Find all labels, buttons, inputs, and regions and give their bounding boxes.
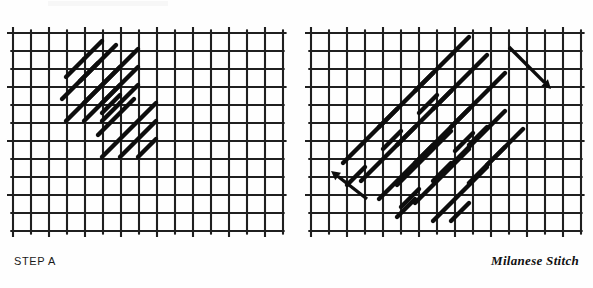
diagram-panel-step-b: STEP B Milanese Stitch (300, 0, 593, 288)
milanese-stitch-diagram: STEP A STEP B Milanese Stitch (0, 0, 593, 288)
diagonal-stitch (487, 147, 505, 165)
diagram-panel-step-a: STEP A (0, 0, 300, 288)
canvas-mesh-step-b (300, 0, 593, 288)
stitch-group (62, 41, 156, 157)
canvas-mesh-step-a (0, 0, 300, 288)
panel-caption-step-a: STEP A (14, 255, 56, 267)
stitch-title: Milanese Stitch (491, 253, 579, 269)
stitch-group (343, 37, 523, 221)
